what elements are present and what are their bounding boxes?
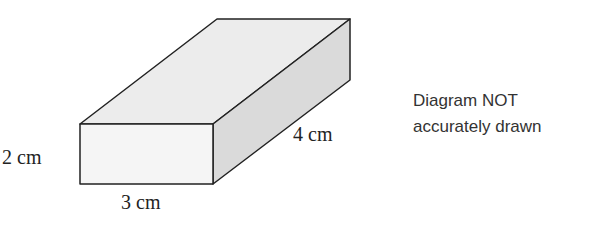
- height-label: 2 cm: [2, 146, 42, 168]
- width-label: 3 cm: [121, 191, 161, 213]
- accuracy-note: Diagram NOT accurately drawn: [413, 88, 542, 140]
- note-line-2: accurately drawn: [413, 114, 542, 140]
- depth-label: 4 cm: [293, 123, 333, 145]
- front-face: [80, 124, 213, 184]
- note-line-1: Diagram NOT: [413, 88, 542, 114]
